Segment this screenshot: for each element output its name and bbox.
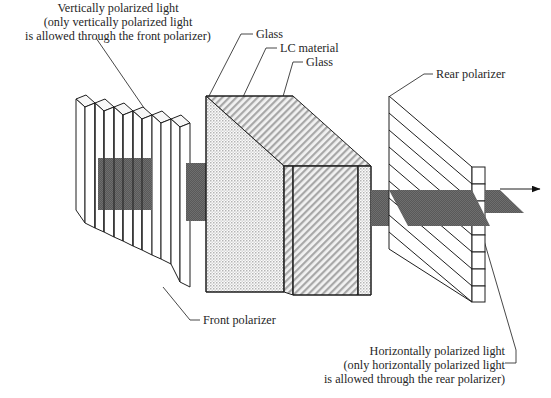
front-polarizer-slat xyxy=(85,103,95,228)
leader-glass-front xyxy=(209,34,253,96)
output-light-beam xyxy=(485,190,524,213)
front-polarizer-slat xyxy=(152,115,161,259)
front-polarizer-slat xyxy=(171,119,180,282)
label-horizontal-light-line1: Horizontally polarized light xyxy=(370,344,506,358)
lcd-polarizer-diagram: Vertically polarized light (only vertica… xyxy=(0,0,551,398)
lc-cell-side-glass-rear xyxy=(358,166,371,295)
label-horizontal-light-line2: (only horizontally polarized light xyxy=(344,358,506,372)
label-vertical-light-line3: is allowed through the front polarizer) xyxy=(25,29,211,43)
leader-front-polarizer xyxy=(163,287,200,320)
label-horizontal-light-line3: is allowed through the rear polarizer) xyxy=(324,372,505,386)
leader-lc-material xyxy=(243,48,277,97)
leader-glass-rear xyxy=(282,62,303,100)
lc-cell[interactable] xyxy=(206,96,371,295)
label-rear-polarizer: Rear polarizer xyxy=(436,67,505,81)
label-front-polarizer: Front polarizer xyxy=(203,313,276,327)
label-glass-rear: Glass xyxy=(306,55,333,69)
label-vertical-light-line1: Vertically polarized light xyxy=(57,1,179,15)
front-polarizer-slat xyxy=(161,119,171,264)
front-polarizer-slat xyxy=(76,99,85,223)
lc-cell-side-lc-material xyxy=(293,166,358,295)
leader-rear-polarizer xyxy=(390,74,433,96)
label-vertical-light-line2: (only vertically polarized light xyxy=(44,15,193,29)
rear-polarizer-depth-strip xyxy=(472,167,485,302)
label-glass-front: Glass xyxy=(256,27,283,41)
lc-cell-side-glass-front xyxy=(284,166,293,295)
label-lc-material: LC material xyxy=(280,41,339,55)
incoming-light-beam xyxy=(98,158,152,210)
diagram-canvas: Vertically polarized light (only vertica… xyxy=(0,0,551,398)
